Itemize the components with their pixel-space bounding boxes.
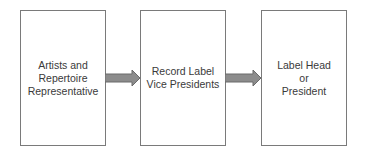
arrow-right-icon xyxy=(105,70,141,86)
node-label-head: Label Head or President xyxy=(261,10,347,146)
node-vice-presidents: Record Label Vice Presidents xyxy=(140,10,226,146)
node-label: Artists and Repertoire Representative xyxy=(28,59,99,98)
node-label: Record Label Vice Presidents xyxy=(147,65,220,91)
arrow-right-icon xyxy=(225,70,262,86)
node-label: Label Head or President xyxy=(277,59,331,98)
node-artists-repertoire: Artists and Repertoire Representative xyxy=(20,10,106,146)
